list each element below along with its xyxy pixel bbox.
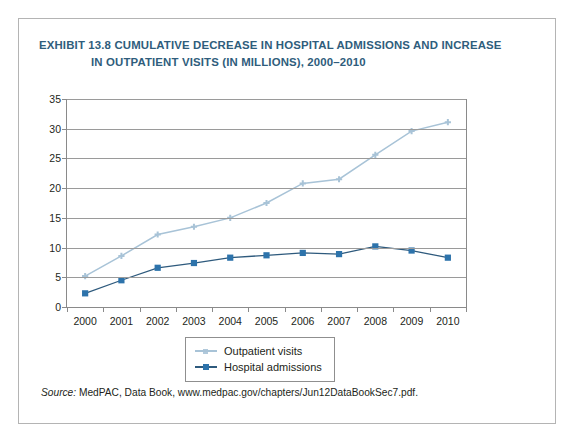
- xtick-label-2005: 2005: [255, 315, 278, 327]
- ytick-mark-25: [62, 158, 67, 159]
- ytick-label-30: 30: [49, 123, 61, 135]
- legend-item-hospital-admissions: Hospital admissions: [195, 359, 322, 375]
- legend-label-outpatient-visits: Outpatient visits: [224, 345, 302, 357]
- gridline-y-25: [67, 158, 466, 159]
- ytick-label-5: 5: [55, 271, 61, 283]
- source-text: MedPAC, Data Book, www.medpac.gov/chapte…: [79, 387, 418, 398]
- ytick-mark-35: [62, 99, 67, 100]
- xtick-mark-7: [321, 307, 322, 312]
- ytick-mark-10: [62, 248, 67, 249]
- ytick-label-20: 20: [49, 182, 61, 194]
- xtick-mark-4: [212, 307, 213, 312]
- data-point-outpatient-visits-2002: [155, 231, 161, 237]
- xtick-mark-2: [140, 307, 141, 312]
- xtick-label-2006: 2006: [291, 315, 314, 327]
- legend-label-hospital-admissions: Hospital admissions: [224, 361, 322, 373]
- ytick-label-25: 25: [49, 152, 61, 164]
- gridline-y-15: [67, 218, 466, 219]
- legend-swatch-outpatient-visits: [195, 346, 217, 356]
- data-point-hospital-admissions-2000: [82, 290, 88, 296]
- xtick-label-2000: 2000: [73, 315, 96, 327]
- xtick-label-2004: 2004: [219, 315, 242, 327]
- exhibit-figure: EXHIBIT 13.8 CUMULATIVE DECREASE IN HOSP…: [18, 18, 556, 424]
- ytick-label-15: 15: [49, 212, 61, 224]
- xtick-mark-6: [285, 307, 286, 312]
- gridline-y-5: [67, 277, 466, 278]
- xtick-mark-10: [430, 307, 431, 312]
- legend-swatch-hospital-admissions: [195, 362, 217, 372]
- xtick-mark-0: [67, 307, 68, 312]
- ytick-mark-5: [62, 277, 67, 278]
- data-point-hospital-admissions-2004: [227, 255, 233, 261]
- xtick-mark-3: [176, 307, 177, 312]
- xtick-mark-5: [248, 307, 249, 312]
- gridline-y-20: [67, 188, 466, 189]
- source-note: Source: MedPAC, Data Book, www.medpac.go…: [41, 387, 418, 398]
- xtick-label-2010: 2010: [436, 315, 459, 327]
- data-point-hospital-admissions-2007: [336, 251, 342, 257]
- ytick-label-0: 0: [55, 301, 61, 313]
- ytick-label-10: 10: [49, 242, 61, 254]
- plot-area: 0510152025303520002001200220032004200520…: [66, 99, 466, 308]
- xtick-label-2001: 2001: [110, 315, 133, 327]
- xtick-label-2002: 2002: [146, 315, 169, 327]
- ytick-mark-15: [62, 218, 67, 219]
- xtick-label-2008: 2008: [364, 315, 387, 327]
- chart-legend: Outpatient visits Hospital admissions: [185, 337, 335, 382]
- gridline-y-35: [67, 99, 466, 100]
- data-point-hospital-admissions-2010: [445, 255, 451, 261]
- ytick-mark-20: [62, 188, 67, 189]
- xtick-mark-8: [357, 307, 358, 312]
- data-point-outpatient-visits-2003: [191, 224, 197, 230]
- xtick-mark-11: [466, 307, 467, 312]
- plot-right-edge: [466, 99, 467, 307]
- data-point-outpatient-visits-2010: [445, 119, 451, 125]
- data-point-outpatient-visits-2006: [300, 180, 306, 186]
- xtick-label-2009: 2009: [400, 315, 423, 327]
- gridline-y-10: [67, 248, 466, 249]
- xtick-mark-9: [393, 307, 394, 312]
- series-lines: [67, 99, 466, 307]
- data-point-hospital-admissions-2006: [300, 250, 306, 256]
- xtick-label-2007: 2007: [327, 315, 350, 327]
- gridline-y-30: [67, 129, 466, 130]
- ytick-label-35: 35: [49, 93, 61, 105]
- source-label: Source:: [41, 387, 76, 398]
- ytick-mark-30: [62, 129, 67, 130]
- data-point-hospital-admissions-2005: [263, 252, 269, 258]
- xtick-label-2003: 2003: [182, 315, 205, 327]
- data-point-hospital-admissions-2002: [155, 265, 161, 271]
- legend-item-outpatient-visits: Outpatient visits: [195, 343, 322, 359]
- data-point-hospital-admissions-2003: [191, 260, 197, 266]
- data-point-outpatient-visits-2005: [263, 200, 269, 206]
- xtick-mark-1: [103, 307, 104, 312]
- data-point-outpatient-visits-2001: [118, 253, 124, 259]
